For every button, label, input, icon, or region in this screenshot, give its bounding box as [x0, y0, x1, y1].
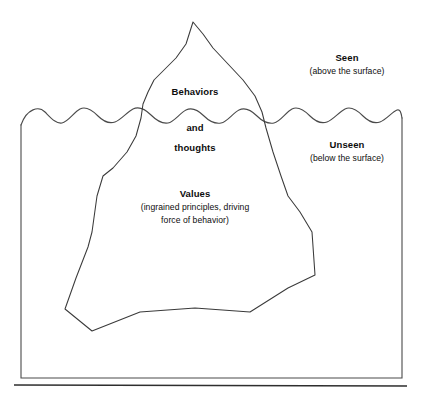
label-thoughts: thoughts: [145, 142, 245, 154]
label-values-title: Values: [118, 188, 272, 200]
label-and: and: [145, 122, 245, 134]
label-unseen-detail: (below the surface): [288, 153, 406, 164]
label-unseen: Unseen (below the surface): [288, 139, 406, 164]
label-values-detail-line2: force of behavior): [118, 215, 272, 226]
bottom-divider-rule: [14, 385, 407, 386]
label-and-text: and: [145, 122, 245, 134]
label-values: Values (ingrained principles, driving fo…: [118, 188, 272, 225]
iceberg-diagram: Behaviors and thoughts Values (ingrained…: [0, 0, 421, 398]
label-unseen-title: Unseen: [288, 139, 406, 151]
label-values-detail-line1: (ingrained principles, driving: [118, 202, 272, 213]
label-seen-detail: (above the surface): [288, 66, 406, 77]
iceberg-outline: [65, 22, 315, 331]
label-seen: Seen (above the surface): [288, 52, 406, 77]
label-seen-title: Seen: [288, 52, 406, 64]
label-thoughts-text: thoughts: [145, 142, 245, 154]
label-behaviors: Behaviors: [145, 86, 245, 98]
label-behaviors-text: Behaviors: [145, 86, 245, 98]
